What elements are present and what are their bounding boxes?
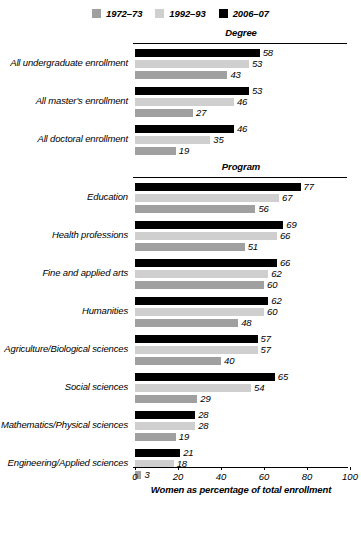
- bar[interactable]: [135, 49, 260, 57]
- bar[interactable]: [135, 125, 234, 133]
- x-axis-tick-label: 40: [216, 471, 227, 482]
- legend-swatch-icon: [155, 9, 164, 18]
- bar-set: 575740: [135, 335, 361, 368]
- bar[interactable]: [135, 232, 277, 240]
- legend-entry-1972-73[interactable]: 1972–73: [92, 8, 142, 19]
- bar-line: 53: [135, 87, 361, 95]
- bar-line: 62: [135, 270, 361, 278]
- bar-value-label: 46: [237, 123, 247, 134]
- bar[interactable]: [135, 87, 249, 95]
- category-label: All master's enrollment: [0, 95, 128, 106]
- legend-label: 1992–93: [169, 8, 205, 19]
- bar-value-label: 57: [261, 344, 271, 355]
- bar-group: Education776756: [0, 180, 361, 218]
- bar[interactable]: [135, 373, 275, 381]
- legend-swatch-icon: [92, 9, 101, 18]
- section-title: Program: [135, 161, 347, 172]
- bar[interactable]: [135, 98, 234, 106]
- bar-value-label: 43: [230, 69, 240, 80]
- bar[interactable]: [135, 384, 251, 392]
- bar-value-label: 46: [237, 96, 247, 107]
- bar[interactable]: [135, 308, 264, 316]
- bar-line: 35: [135, 136, 361, 144]
- category-label: Agriculture/Biological sciences: [0, 343, 128, 354]
- bar-group: Social sciences655429: [0, 370, 361, 408]
- bar-value-label: 66: [280, 230, 290, 241]
- bar[interactable]: [135, 335, 258, 343]
- bar[interactable]: [135, 147, 176, 155]
- bar-group: All master's enrollment534627: [0, 84, 361, 122]
- bar-value-label: 35: [213, 134, 223, 145]
- bar-line: 58: [135, 49, 361, 57]
- bar-line: 46: [135, 98, 361, 106]
- x-axis-tick-label: 60: [259, 471, 270, 482]
- bar[interactable]: [135, 449, 180, 457]
- bar-line: 65: [135, 373, 361, 381]
- bar[interactable]: [135, 433, 176, 441]
- bar-set: 463519: [135, 125, 361, 158]
- bar[interactable]: [135, 60, 249, 68]
- legend-swatch-icon: [219, 9, 228, 18]
- category-label: Mathematics/Physical sciences: [0, 419, 128, 430]
- bar-line: 60: [135, 308, 361, 316]
- bar-line: 43: [135, 71, 361, 79]
- bar-line: 66: [135, 259, 361, 267]
- x-axis: Women as percentage of total enrollment …: [0, 467, 361, 501]
- category-label: Social sciences: [0, 381, 128, 392]
- bar-group: Fine and applied arts666260: [0, 256, 361, 294]
- bar-set: 696651: [135, 221, 361, 254]
- category-label: Humanities: [0, 305, 128, 316]
- bar-set: 666260: [135, 259, 361, 292]
- bar[interactable]: [135, 259, 277, 267]
- bar[interactable]: [135, 221, 283, 229]
- bar[interactable]: [135, 136, 210, 144]
- bar-value-label: 53: [252, 58, 262, 69]
- bar-group: Mathematics/Physical sciences282819: [0, 408, 361, 446]
- bar[interactable]: [135, 109, 193, 117]
- x-axis-tick: [178, 467, 179, 470]
- section-divider: [133, 43, 347, 44]
- bar[interactable]: [135, 395, 197, 403]
- bar-group: All undergraduate enrollment585343: [0, 46, 361, 84]
- bar[interactable]: [135, 411, 195, 419]
- bar[interactable]: [135, 243, 245, 251]
- bar[interactable]: [135, 194, 279, 202]
- bar-value-label: 65: [278, 371, 288, 382]
- bar-line: 29: [135, 395, 361, 403]
- bar[interactable]: [135, 71, 227, 79]
- bar-line: 51: [135, 243, 361, 251]
- bar-line: 54: [135, 384, 361, 392]
- bar-value-label: 57: [261, 333, 271, 344]
- bar[interactable]: [135, 183, 301, 191]
- bar-line: 69: [135, 221, 361, 229]
- bar-value-label: 40: [224, 355, 234, 366]
- bar-line: 62: [135, 297, 361, 305]
- category-label: Health professions: [0, 229, 128, 240]
- bar[interactable]: [135, 319, 238, 327]
- bar-line: 67: [135, 194, 361, 202]
- legend-entry-1992-93[interactable]: 1992–93: [155, 8, 205, 19]
- bar-set: 655429: [135, 373, 361, 406]
- bar-value-label: 66: [280, 257, 290, 268]
- legend-entry-2006-07[interactable]: 2006–07: [219, 8, 269, 19]
- bar[interactable]: [135, 357, 221, 365]
- bar[interactable]: [135, 422, 195, 430]
- bar-value-label: 51: [248, 241, 258, 252]
- bar[interactable]: [135, 270, 268, 278]
- bar-rows: DegreeAll undergraduate enrollment585343…: [0, 26, 361, 484]
- x-axis-title: Women as percentage of total enrollment: [135, 484, 347, 495]
- bar[interactable]: [135, 205, 255, 213]
- bar-value-label: 62: [271, 268, 281, 279]
- x-axis-line: [133, 467, 348, 468]
- bar[interactable]: [135, 346, 258, 354]
- category-label: Fine and applied arts: [0, 267, 128, 278]
- x-axis-tick: [221, 467, 222, 470]
- section-header-degree: Degree: [0, 26, 361, 46]
- bar-value-label: 77: [304, 181, 314, 192]
- bar[interactable]: [135, 297, 268, 305]
- chart-root: 1972–731992–932006–07 DegreeAll undergra…: [0, 0, 361, 535]
- bar-line: 19: [135, 147, 361, 155]
- bar-line: 56: [135, 205, 361, 213]
- bar[interactable]: [135, 281, 264, 289]
- bar-set: 776756: [135, 183, 361, 216]
